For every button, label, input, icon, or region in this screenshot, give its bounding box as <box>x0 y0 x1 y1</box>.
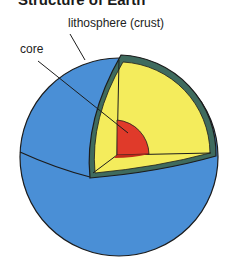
earth-cutaway-diagram <box>0 0 225 268</box>
leader-lithosphere <box>70 34 85 60</box>
